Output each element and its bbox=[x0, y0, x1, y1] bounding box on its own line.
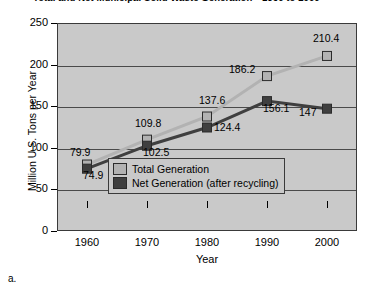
legend-item: Total Generation bbox=[113, 162, 278, 176]
data-point-label: 137.6 bbox=[199, 94, 225, 106]
data-point-label: 156.1 bbox=[263, 102, 289, 114]
y-tick-label: 250 bbox=[30, 16, 48, 28]
legend-item: Net Generation (after recycling) bbox=[113, 176, 278, 190]
y-tick: 0 bbox=[51, 231, 57, 232]
data-point-label: 79.9 bbox=[70, 146, 90, 158]
y-tick-label: 50 bbox=[36, 182, 48, 194]
x-tick-label: 1970 bbox=[125, 236, 169, 248]
x-tick-label: 1960 bbox=[65, 236, 109, 248]
y-tick-label: 0 bbox=[42, 224, 48, 236]
x-tick-label: 1980 bbox=[185, 236, 229, 248]
series-plot bbox=[57, 23, 357, 231]
data-point-label: 147 bbox=[299, 106, 317, 118]
data-point-label: 210.4 bbox=[313, 32, 339, 44]
figure-caption: a. bbox=[8, 273, 16, 284]
x-tick-label: 2000 bbox=[305, 236, 349, 248]
data-marker bbox=[203, 112, 212, 121]
y-tick-label: 150 bbox=[30, 99, 48, 111]
data-point-label: 186.2 bbox=[229, 63, 255, 75]
chart-title: Total and Net Municipal Solid Waste Gene… bbox=[33, 0, 363, 3]
legend-label: Total Generation bbox=[132, 163, 209, 175]
data-point-label: 124.4 bbox=[214, 121, 240, 133]
y-tick-label: 100 bbox=[30, 141, 48, 153]
data-point-label: 109.8 bbox=[135, 117, 161, 129]
data-marker bbox=[203, 123, 212, 132]
data-point-label: 102.5 bbox=[143, 146, 169, 158]
y-tick-mark bbox=[51, 231, 57, 232]
legend-swatch-icon bbox=[113, 163, 127, 175]
x-tick-label: 1990 bbox=[245, 236, 289, 248]
data-marker bbox=[323, 51, 332, 60]
legend-swatch-icon bbox=[113, 177, 127, 189]
data-marker bbox=[323, 104, 332, 113]
data-marker bbox=[263, 72, 272, 81]
y-tick-label: 200 bbox=[30, 58, 48, 70]
data-point-label: 74.9 bbox=[83, 169, 103, 181]
series-line-total bbox=[87, 56, 327, 165]
legend-label: Net Generation (after recycling) bbox=[132, 177, 278, 189]
chart-legend: Total GenerationNet Generation (after re… bbox=[108, 158, 285, 194]
x-axis-title: Year bbox=[57, 253, 357, 265]
